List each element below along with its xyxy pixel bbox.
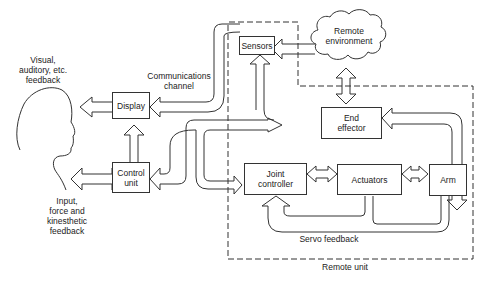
- input-feedback-label: Input, force and kinesthetic feedback: [44, 196, 90, 236]
- display-to-operator-arrow: [80, 97, 112, 117]
- servo-feedback-label: Servo feedback: [296, 234, 362, 244]
- visual-feedback-label: Visual, auditory, etc. feedback: [14, 55, 72, 85]
- remote-unit-boundary: [228, 22, 473, 259]
- joint-controller-box: Joint controller: [244, 163, 307, 195]
- operator-head-icon: [17, 88, 75, 190]
- remote-unit-label: Remote unit: [316, 262, 374, 272]
- control-unit-box: Control unit: [112, 162, 150, 193]
- actuators-arm-arrow: [402, 166, 428, 182]
- joint-actuators-arrow: [307, 166, 337, 182]
- control-to-sensors-arrow: [250, 55, 274, 120]
- sensors-box: Sensors: [239, 36, 275, 55]
- environment-to-sensors-arrow: [272, 39, 315, 59]
- end-effector-box: End effector: [321, 107, 382, 139]
- arm-box: Arm: [429, 164, 467, 196]
- display-box: Display: [112, 92, 150, 119]
- remote-environment-label: Remote environment: [318, 26, 380, 46]
- communications-channel-label: Communications channel: [147, 71, 211, 91]
- actuators-box: Actuators: [337, 164, 402, 195]
- servo-feedback-actuators: [262, 196, 449, 232]
- control-to-display-arrow: [124, 125, 144, 162]
